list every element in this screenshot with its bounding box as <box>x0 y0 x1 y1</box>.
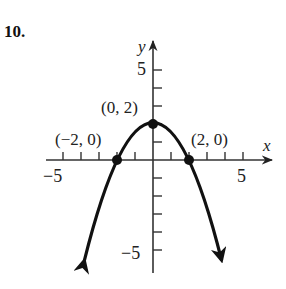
graph-figure: 10. <box>0 0 286 289</box>
left-root-label: (−2, 0) <box>55 130 101 149</box>
y-tick-label-neg5: −5 <box>121 243 140 263</box>
x-tick-label-neg5: −5 <box>43 166 62 186</box>
left-root-point <box>112 155 122 165</box>
vertex-label: (0, 2) <box>101 98 138 117</box>
x-axis-label: x <box>262 136 271 155</box>
parabola-plot: y 5 x −5 5 −5 (0, 2) (−2, 0) (2, 0) <box>0 0 286 289</box>
right-root-point <box>184 155 194 165</box>
vertex-point <box>148 119 158 129</box>
y-tick-label-5: 5 <box>137 59 146 79</box>
y-axis-label: y <box>136 37 146 56</box>
x-tick-label-5: 5 <box>237 166 246 186</box>
right-root-label: (2, 0) <box>191 130 228 149</box>
problem-number: 10. <box>4 22 25 42</box>
